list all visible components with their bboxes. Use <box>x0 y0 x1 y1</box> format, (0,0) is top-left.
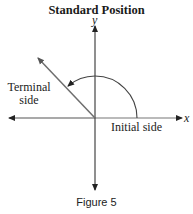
angle-arc <box>68 76 137 118</box>
initial-side-label: Initial side <box>111 120 162 134</box>
terminal-side-label-line1: Terminal <box>7 80 51 94</box>
terminal-side-label-line2: side <box>19 93 38 107</box>
standard-position-diagram: x y Terminal side Initial side <box>0 0 193 214</box>
y-axis-label: y <box>91 13 98 27</box>
x-axis-label: x <box>183 111 190 125</box>
figure-caption: Figure 5 <box>0 196 193 208</box>
